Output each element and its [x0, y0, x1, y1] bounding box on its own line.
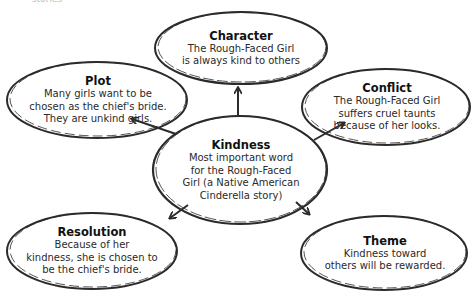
node-title: Character	[209, 29, 273, 43]
node-body: Kindness toward others will be rewarded.	[325, 248, 446, 273]
node-resolution: Resolution Because of her kindness, she …	[8, 214, 176, 288]
center-title: Kindness	[212, 138, 271, 152]
node-body: The Rough-Faced Girl suffers cruel taunt…	[334, 95, 441, 133]
node-title: Conflict	[362, 81, 411, 95]
node-title: Theme	[363, 234, 407, 248]
node-conflict: Conflict The Rough-Faced Girl suffers cr…	[304, 70, 470, 144]
node-title: Resolution	[57, 225, 126, 239]
node-body: Because of her kindness, she is chosen t…	[26, 239, 157, 277]
center-body: Most important word for the Rough-Faced …	[183, 152, 300, 202]
node-body: Many girls want to be chosen as the chie…	[29, 88, 166, 126]
node-theme: Theme Kindness toward others will be rew…	[302, 218, 468, 288]
node-center-kindness: Kindness Most important word for the Rou…	[156, 120, 326, 220]
node-title: Plot	[85, 74, 111, 88]
node-body: The Rough-Faced Girl is always kind to o…	[182, 43, 300, 68]
